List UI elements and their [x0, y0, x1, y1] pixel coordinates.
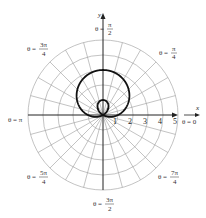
y-axis-arrow-icon: [101, 13, 106, 19]
svg-text:2: 2: [108, 29, 112, 37]
radial-tick-label: 3: [143, 117, 147, 126]
svg-text:θ =: θ =: [27, 173, 36, 181]
svg-text:θ =: θ =: [159, 49, 168, 57]
polar-graph: 12345 y x θ = π 2 θ = 3π 4 θ = π: [0, 0, 206, 218]
svg-text:3π: 3π: [106, 196, 114, 204]
svg-text:4: 4: [42, 50, 46, 58]
radial-tick-label: 4: [158, 117, 162, 126]
grid-ray: [31, 115, 103, 134]
grid-ray: [38, 115, 103, 153]
angle-label-pi-over-4: θ = π 4: [159, 45, 177, 61]
angle-label-zero: θ = 0: [182, 118, 197, 126]
svg-text:4: 4: [173, 178, 177, 186]
grid-ray: [103, 115, 141, 180]
angle-label-pi: θ = π: [8, 116, 23, 124]
grid-ray: [50, 115, 103, 168]
angle-label-3pi-over-2: θ = 3π 2: [93, 196, 114, 213]
svg-text:3π: 3π: [40, 41, 48, 49]
grid-ray: [84, 115, 103, 187]
grid-ray: [103, 43, 122, 115]
radial-tick-label: 2: [128, 117, 132, 126]
svg-text:4: 4: [172, 53, 176, 61]
svg-text:4: 4: [42, 178, 46, 186]
grid-ray: [84, 43, 103, 115]
angle-label-5pi-over-4: θ = 5π 4: [27, 169, 48, 186]
angle-label-3pi-over-4: θ = 3π 4: [27, 41, 48, 58]
grid-ray: [66, 115, 104, 180]
grid-ray: [50, 62, 103, 115]
svg-text:2: 2: [108, 205, 112, 213]
svg-text:7π: 7π: [171, 169, 179, 177]
grid-ray: [38, 78, 103, 116]
x-axis-label: x: [195, 104, 200, 112]
theta-zero-arrow-icon: [195, 113, 200, 117]
svg-text:θ =: θ =: [95, 25, 104, 33]
svg-text:θ =: θ =: [27, 45, 36, 53]
svg-text:π: π: [172, 45, 176, 53]
radial-tick-label: 5: [173, 117, 177, 126]
grid-ray: [103, 96, 175, 115]
angle-label-pi-over-2: θ = π 2: [95, 21, 113, 37]
grid-ray: [31, 96, 103, 115]
grid-ray: [103, 78, 168, 116]
svg-text:θ =: θ =: [158, 173, 167, 181]
svg-text:π: π: [108, 21, 112, 29]
svg-text:θ =: θ =: [93, 200, 102, 208]
polar-plot-canvas: 12345 y x θ = π 2 θ = 3π 4 θ = π: [0, 0, 206, 218]
axes: [28, 13, 200, 190]
radial-tick-label: 1: [113, 117, 117, 126]
svg-text:5π: 5π: [40, 169, 48, 177]
angle-label-7pi-over-4: θ = 7π 4: [158, 169, 179, 186]
grid-ray: [103, 62, 156, 115]
radial-tick-labels: 12345: [113, 117, 177, 126]
